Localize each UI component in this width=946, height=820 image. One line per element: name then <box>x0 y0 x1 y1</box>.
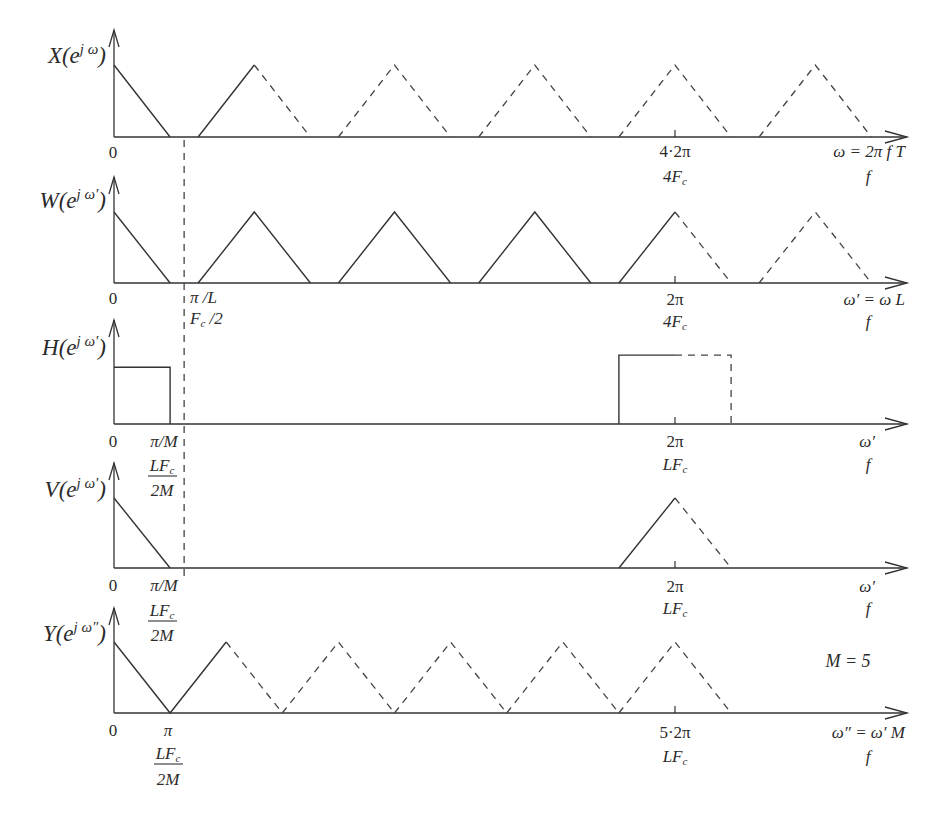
panel-x-spectrum-dashed-segment-4 <box>479 65 591 137</box>
panel-y-spectrum-dashed-segment-2 <box>282 642 394 713</box>
ylabel-close: ) <box>96 188 106 213</box>
panel-y-axis-label: ω″ = ω′ M <box>832 723 906 742</box>
panel-w-spectrum-dashed-segment-5 <box>675 212 731 283</box>
cutoff-freq-main: F <box>189 309 201 328</box>
ylabel-close: ) <box>96 43 106 68</box>
panel-y-axis-freq-label: f <box>866 747 873 766</box>
panel-v-spectrum-solid-segment-1 <box>619 498 675 568</box>
panel-v-cutoff-numerator: LFc <box>149 601 175 621</box>
panel-y-spectrum-dashed-segment-5 <box>619 642 731 713</box>
panel-w-tick-freq-label: 4Fc <box>663 312 687 332</box>
ylabel-superscript: j ω <box>78 41 99 57</box>
panel-y-ylabel: Y(ej ω″) <box>43 619 106 646</box>
panel-h-origin-label: 0 <box>109 432 118 451</box>
ylabel-close: ) <box>96 477 106 502</box>
panel-h-spectrum-solid-segment-1 <box>619 355 675 424</box>
panel-x-spectrum-solid-segment-1 <box>198 65 254 137</box>
panel-w: W(ej ω′) 0 π /L Fc /2 2π 4Fc ω′ = ω L f <box>40 186 906 332</box>
panel-h-ylabel: H(ej ω′) <box>41 333 106 360</box>
ylabel-superscript: j ω′ <box>75 186 100 202</box>
ylabel-close: ) <box>96 335 106 360</box>
panel-x-spectrum-dashed-segment-2 <box>254 65 310 137</box>
panel-w-spectrum-solid-segment-3 <box>479 212 591 283</box>
panel-w-spectrum-solid-segment-1 <box>198 212 310 283</box>
panel-w-spectrum-dashed-segment-6 <box>759 212 871 283</box>
tick-freq-main: LF <box>662 455 683 474</box>
panel-w-origin-label: 0 <box>109 289 118 308</box>
cutoff-freq-rest: /2 <box>205 309 223 328</box>
numerator-sub: c <box>169 609 174 621</box>
panel-h-spectrum-dashed-segment-2 <box>675 355 731 424</box>
panel-v-tick-label: 2π <box>666 577 684 596</box>
tick-freq-main: 4F <box>663 167 683 186</box>
panel-y-cutoff-label: π <box>164 721 173 740</box>
numerator-sub: c <box>169 464 174 476</box>
panel-h-spectrum-solid-segment-0 <box>114 367 170 424</box>
numerator-main: LF <box>155 744 176 763</box>
panel-x-spectrum-solid-segment-0 <box>114 65 170 137</box>
panel-y-spectrum-dashed-segment-3 <box>395 642 507 713</box>
decimation-factor-note: M = 5 <box>824 651 870 671</box>
tick-freq-sub: c <box>682 320 687 332</box>
panel-x-axis-freq-label: f <box>866 167 873 186</box>
panel-y-origin-label: 0 <box>109 721 118 740</box>
panel-h-cutoff-denominator: 2M <box>151 481 175 500</box>
panel-h-tick-freq-label: LFc <box>662 455 688 475</box>
tick-freq-sub: c <box>682 175 687 187</box>
panel-h: H(ej ω′) 0 π/M LFc 2M 2π LFc ω′ f <box>41 333 875 500</box>
ylabel-superscript: j ω″ <box>72 619 100 635</box>
panel-w-cutoff-label: π /L <box>190 288 217 307</box>
panel-x-origin-label: 0 <box>109 143 118 162</box>
panel-h-cutoff-label: π/M <box>150 432 178 451</box>
panel-v: V(ej ω′) 0 π/M LFc 2M 2π LFc ω′ f <box>45 475 876 645</box>
tick-freq-sub: c <box>682 463 687 475</box>
panel-x-tick-freq-label: 4Fc <box>663 167 687 187</box>
panel-y-cutoff-denominator: 2M <box>157 770 181 789</box>
tick-freq-main: LF <box>662 747 683 766</box>
panel-w-spectrum-solid-segment-4 <box>619 212 675 283</box>
panel-w-axis-freq-label: f <box>866 312 873 331</box>
ylabel-superscript: j ω′ <box>75 475 100 491</box>
panel-h-axis-freq-label: f <box>866 455 873 474</box>
ylabel-base: Y(e <box>43 621 74 646</box>
tick-freq-sub: c <box>682 755 687 767</box>
panel-v-cutoff-denominator: 2M <box>151 626 175 645</box>
panel-v-spectrum-dashed-segment-2 <box>675 498 731 568</box>
panel-y-spectrum-dashed-segment-4 <box>507 642 619 713</box>
panel-v-ylabel: V(ej ω′) <box>45 475 106 502</box>
panel-y-tick-label: 5·2π <box>659 723 691 742</box>
panel-y-tick-freq-label: LFc <box>662 747 688 767</box>
tick-freq-main: 4F <box>663 312 683 331</box>
panel-y-cutoff-numerator: LFc <box>155 744 181 764</box>
panel-v-tick-freq-label: LFc <box>662 599 688 619</box>
panel-x-spectrum-dashed-segment-6 <box>759 65 871 137</box>
panel-v-origin-label: 0 <box>109 576 118 595</box>
panel-x-tick-label: 4·2π <box>659 142 691 161</box>
panel-v-spectrum-solid-segment-0 <box>114 498 170 568</box>
ylabel-base: H(e <box>41 335 76 360</box>
panel-y-spectrum-solid-segment-0 <box>114 642 226 713</box>
ylabel-base: W(e <box>40 188 77 213</box>
panel-v-axis-freq-label: f <box>866 599 873 618</box>
panel-w-tick-label: 2π <box>666 290 684 309</box>
diagram-graphics <box>109 30 907 719</box>
panel-x-spectrum-dashed-segment-3 <box>338 65 450 137</box>
panel-w-ylabel: W(ej ω′) <box>40 186 107 213</box>
panel-v-cutoff-label: π/M <box>150 576 178 595</box>
numerator-main: LF <box>149 456 170 475</box>
panel-x-ylabel: X(ej ω) <box>47 41 106 68</box>
ylabel-superscript: j ω′ <box>75 333 100 349</box>
panel-x-axis-label: ω = 2π f T <box>833 142 906 161</box>
ylabel-base: X(e <box>47 43 80 68</box>
ylabel-close: ) <box>96 621 106 646</box>
multirate-spectra-diagram: X(ej ω) 0 4·2π 4Fc ω = 2π f T f W(ej ω′)… <box>0 0 946 820</box>
ylabel-base: V(e <box>45 477 77 502</box>
panel-v-axis-label: ω′ <box>859 577 875 596</box>
panel-w-spectrum-solid-segment-0 <box>114 212 170 283</box>
tick-freq-main: LF <box>662 599 683 618</box>
panel-h-tick-label: 2π <box>666 432 684 451</box>
panel-x-spectrum-dashed-segment-5 <box>619 65 731 137</box>
panel-w-spectrum-solid-segment-2 <box>338 212 450 283</box>
tick-freq-sub: c <box>682 607 687 619</box>
panel-w-cutoff-freq-label: Fc /2 <box>189 309 223 329</box>
